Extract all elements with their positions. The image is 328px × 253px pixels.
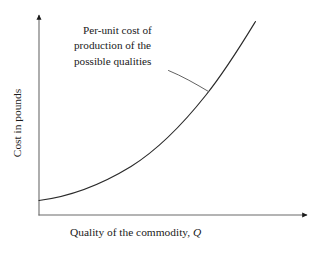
- curve-annotation: Per-unit cost of production of the possi…: [74, 23, 194, 69]
- y-axis-label: Cost in pounds: [11, 88, 23, 156]
- figure-container: Per-unit cost of production of the possi…: [0, 0, 328, 253]
- annotation-line-1: Per-unit cost of: [74, 23, 194, 38]
- x-axis-label-text: Quality of the commodity,: [70, 226, 190, 238]
- leader-line: [169, 71, 209, 92]
- annotation-line-2: production of the: [74, 38, 194, 53]
- annotation-line-3: possible qualities: [74, 54, 194, 69]
- y-axis-label-wrap: Cost in pounds: [0, 55, 34, 190]
- x-axis-label-symbol: Q: [193, 226, 201, 238]
- x-axis-label: Quality of the commodity, Q: [70, 226, 270, 238]
